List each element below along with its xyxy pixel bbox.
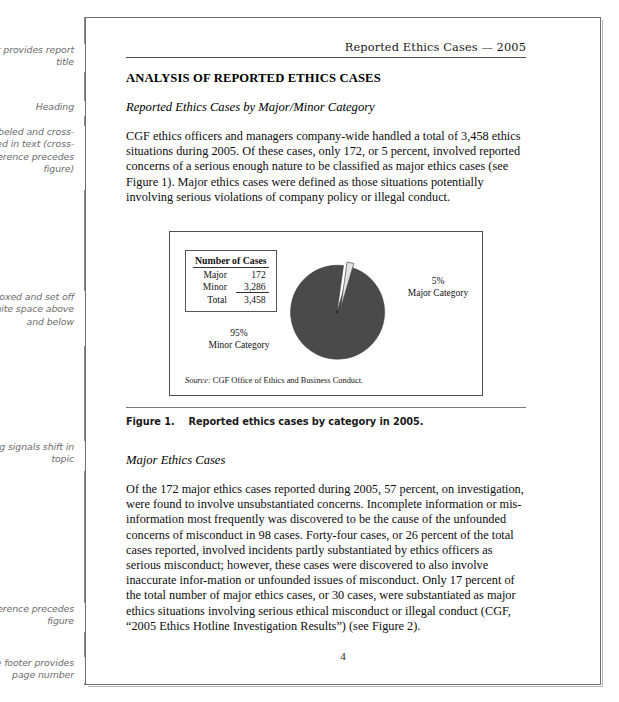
paragraph-overview: CGF ethics officers and managers company… bbox=[126, 129, 526, 205]
page-title: ANALYSIS OF REPORTED ETHICS CASES bbox=[126, 71, 526, 86]
figure-caption-number: Figure 1. bbox=[126, 416, 175, 427]
page-number: 4 bbox=[340, 650, 346, 662]
pie-chart-svg bbox=[282, 254, 392, 364]
table-cell-value: 3,286 bbox=[236, 280, 269, 293]
pie-label-minor-pct: 95% bbox=[230, 328, 247, 338]
annotation-header-note: Header provides report title bbox=[0, 44, 74, 69]
subheading-category: Reported Ethics Cases by Major/Minor Cat… bbox=[126, 100, 526, 115]
pie-label-minor: 95% Minor Category bbox=[196, 328, 282, 351]
document-page: Reported Ethics Cases — 2005 ANALYSIS OF… bbox=[85, 17, 601, 685]
table-row: Minor 3,286 bbox=[193, 280, 269, 293]
running-header: Reported Ethics Cases — 2005 bbox=[126, 40, 526, 57]
table-cell-value: 3,458 bbox=[236, 293, 269, 306]
source-label: Source: bbox=[185, 376, 211, 385]
figure-caption: Figure 1.Reported ethics cases by catego… bbox=[126, 416, 526, 427]
table-cell-label: Total bbox=[193, 293, 236, 306]
page-content-area: Reported Ethics Cases — 2005 ANALYSIS OF… bbox=[126, 40, 526, 634]
pie-label-major-pct: 5% bbox=[432, 276, 445, 286]
table-cell-label: Minor bbox=[193, 280, 236, 293]
pie-label-minor-name: Minor Category bbox=[209, 340, 270, 350]
subheading-major-ethics-cases: Major Ethics Cases bbox=[126, 453, 526, 468]
annotation-figure-box-note: Figure boxed and set off by white space … bbox=[0, 291, 74, 328]
annotation-topic-shift-note: Heading signals shift in topic bbox=[0, 441, 74, 466]
annotation-crossref-note: Figure labeled and cross-referenced in t… bbox=[0, 126, 74, 176]
figure-1: Number of Cases Major 172 Minor 3,286 bbox=[126, 231, 526, 427]
table-row: Major 172 bbox=[193, 268, 269, 281]
table-cell-label: Major bbox=[193, 268, 236, 281]
annotation-crossref2-note: Cross-reference precedes figure bbox=[0, 603, 74, 628]
paragraph-major-cases: Of the 172 major ethics cases reported d… bbox=[126, 482, 526, 634]
annotation-heading-note: Heading bbox=[0, 101, 74, 113]
pie-chart bbox=[282, 254, 392, 364]
page-footer: 4 bbox=[86, 650, 600, 662]
annotation-footer-note: Page footer provides page number bbox=[0, 657, 74, 682]
figure-caption-divider bbox=[126, 407, 526, 408]
figure-source-note: Source: CGF Office of Ethics and Busines… bbox=[185, 376, 363, 385]
pie-label-major-name: Major Category bbox=[408, 288, 468, 298]
pie-center-dot bbox=[336, 311, 339, 314]
pie-label-major: 5% Major Category bbox=[395, 276, 481, 299]
annotation-column: Header provides report title Heading Fig… bbox=[0, 0, 86, 702]
table-header: Number of Cases bbox=[193, 255, 269, 268]
figure-frame: Number of Cases Major 172 Minor 3,286 bbox=[169, 231, 483, 396]
number-of-cases-table: Number of Cases Major 172 Minor 3,286 bbox=[185, 250, 277, 312]
header-divider bbox=[126, 57, 526, 58]
table-cell-value: 172 bbox=[236, 268, 269, 281]
source-text: CGF Office of Ethics and Business Conduc… bbox=[211, 376, 363, 385]
figure-caption-text: Reported ethics cases by category in 200… bbox=[189, 416, 424, 427]
table-row: Total 3,458 bbox=[193, 293, 269, 306]
